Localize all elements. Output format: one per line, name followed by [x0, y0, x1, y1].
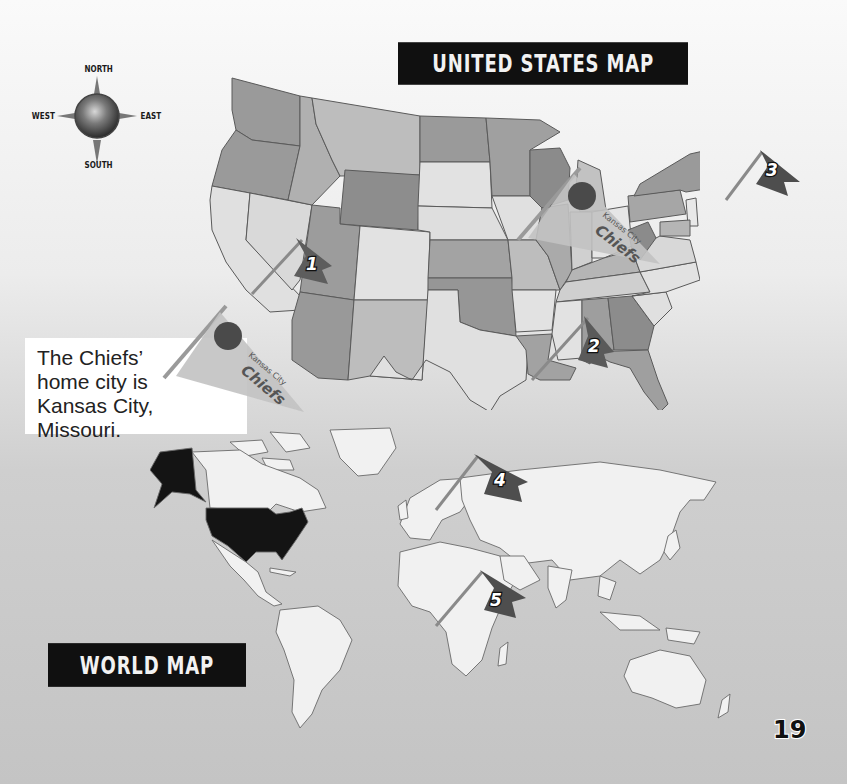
flag-number-3: 3 [766, 160, 778, 180]
flag-number-4: 4 [493, 470, 506, 490]
helmet-icon [568, 182, 596, 210]
flag-marker-3: 3 [722, 138, 812, 206]
compass-south-label: SOUTH [85, 160, 113, 170]
chiefs-pennant-kansas-city: Kansas City Chiefs [512, 160, 662, 280]
page-number: 19 [773, 716, 806, 744]
us-map-title-banner: United States Map [398, 42, 688, 85]
flag-number-1: 1 [306, 254, 318, 274]
compass-west-label: WEST [32, 111, 55, 121]
flag-marker-1: 1 [248, 226, 340, 298]
compass-east-label: EAST [141, 111, 162, 121]
chiefs-pennant-callout: Kansas City Chiefs [156, 300, 306, 418]
flag-marker-5: 5 [432, 562, 532, 632]
compass-north-label: NORTH [85, 64, 113, 74]
world-map-title: World Map [80, 651, 214, 680]
world-map-title-banner: World Map [48, 643, 246, 687]
us-map-title: United States Map [432, 49, 654, 78]
helmet-icon [214, 322, 242, 350]
compass-rose: NORTH SOUTH WEST EAST [25, 60, 175, 180]
flag-marker-4: 4 [432, 446, 532, 516]
flag-number-2: 2 [588, 336, 600, 356]
flag-number-5: 5 [490, 590, 502, 610]
flag-marker-2: 2 [528, 306, 620, 384]
